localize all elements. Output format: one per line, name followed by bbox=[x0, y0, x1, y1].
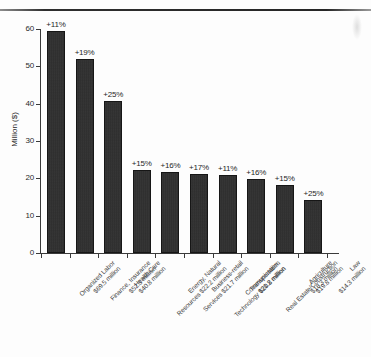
bar-value-label: +25% bbox=[296, 189, 330, 198]
x-tick-mark bbox=[241, 254, 242, 258]
bar-value-label: +11% bbox=[39, 20, 73, 29]
y-tick-label: 30 bbox=[14, 136, 34, 145]
y-tick-label: 10 bbox=[14, 211, 34, 220]
x-tick-mark bbox=[41, 254, 42, 258]
y-tick-label-wrap: 30 bbox=[14, 136, 34, 146]
x-tick-mark bbox=[155, 254, 156, 258]
y-tick-label: 60 bbox=[14, 24, 34, 33]
x-tick-mark bbox=[127, 254, 128, 258]
x-tick-mark bbox=[298, 254, 299, 258]
y-tick-mark bbox=[36, 104, 40, 105]
y-tick-label-wrap: 10 bbox=[14, 211, 34, 221]
y-tick-label-wrap: 50 bbox=[14, 61, 34, 71]
bar bbox=[76, 59, 94, 253]
bar bbox=[276, 185, 294, 253]
y-tick-mark bbox=[36, 178, 40, 179]
x-tick-mark bbox=[184, 254, 185, 258]
y-tick-mark bbox=[36, 141, 40, 142]
x-category-label: Health Care$40.8 million bbox=[131, 259, 166, 294]
bar bbox=[190, 174, 208, 253]
y-tick-label-wrap: 20 bbox=[14, 173, 34, 183]
bar bbox=[247, 179, 265, 253]
y-tick-mark bbox=[36, 216, 40, 217]
bar-chart-plot: Million ($) 0102030405060 +11%+19%+25%+1… bbox=[0, 0, 371, 357]
x-tick-mark bbox=[327, 254, 328, 258]
y-tick-mark bbox=[36, 66, 40, 67]
bar bbox=[219, 175, 237, 253]
x-category-label: Transportation$20.8 million bbox=[247, 259, 286, 298]
y-tick-label-wrap: 40 bbox=[14, 99, 34, 109]
y-tick-label-wrap: 60 bbox=[14, 24, 34, 34]
bar bbox=[304, 200, 322, 253]
y-tick-mark bbox=[36, 253, 40, 254]
x-tick-mark bbox=[270, 254, 271, 258]
y-tick-label: 20 bbox=[14, 173, 34, 182]
y-tick-label: 40 bbox=[14, 99, 34, 108]
x-axis-line bbox=[40, 253, 339, 254]
bar bbox=[161, 172, 179, 253]
chart-screenshot: Million ($) 0102030405060 +11%+19%+25%+1… bbox=[0, 0, 371, 357]
x-tick-mark bbox=[213, 254, 214, 258]
y-tick-label: 50 bbox=[14, 61, 34, 70]
x-tick-mark bbox=[98, 254, 99, 258]
bar-value-label: +25% bbox=[96, 90, 130, 99]
bar-value-label: +19% bbox=[68, 48, 102, 57]
y-tick-label-wrap: 0 bbox=[14, 248, 34, 258]
y-axis-line bbox=[40, 29, 41, 254]
bar bbox=[133, 170, 151, 253]
y-tick-mark bbox=[36, 29, 40, 30]
x-tick-mark bbox=[70, 254, 71, 258]
bar bbox=[47, 31, 65, 253]
bar bbox=[104, 101, 122, 253]
y-tick-label: 0 bbox=[14, 248, 34, 257]
bar-value-label: +15% bbox=[268, 174, 302, 183]
